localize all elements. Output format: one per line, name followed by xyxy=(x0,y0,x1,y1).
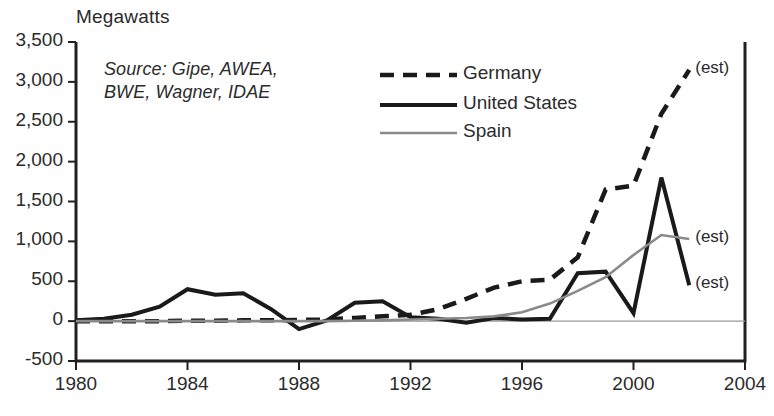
x-tick-label: 1980 xyxy=(36,373,116,395)
x-tick-label: 1984 xyxy=(148,373,228,395)
wind-capacity-chart: Megawatts Source: Gipe, AWEA, BWE, Wagne… xyxy=(0,0,774,416)
y-tick-label: 3,000 xyxy=(0,69,63,91)
x-tick-label: 1996 xyxy=(482,373,562,395)
series-line-spain xyxy=(76,235,689,321)
y-tick-label: 500 xyxy=(0,268,63,290)
series-line-united-states xyxy=(76,178,689,330)
est-label-germany: (est) xyxy=(695,58,729,78)
x-tick-label: 2004 xyxy=(705,373,774,395)
y-tick-label: 3,500 xyxy=(0,29,63,51)
x-tick-label: 2000 xyxy=(594,373,674,395)
y-tick-label: 1,500 xyxy=(0,189,63,211)
y-tick-label: 0 xyxy=(0,308,63,330)
legend-label-germany: Germany xyxy=(463,62,541,84)
legend-swatches xyxy=(380,75,457,133)
x-tick-label: 1988 xyxy=(259,373,339,395)
series-line-germany xyxy=(76,70,689,321)
y-tick-label: -500 xyxy=(0,348,63,370)
plot-canvas xyxy=(0,0,774,416)
y-tick-label: 2,000 xyxy=(0,149,63,171)
legend-label-united-states: United States xyxy=(463,92,577,114)
y-tick-label: 1,000 xyxy=(0,228,63,250)
est-label-spain: (est) xyxy=(695,227,729,247)
data-series-layer xyxy=(76,70,689,329)
legend-label-spain: Spain xyxy=(463,120,512,142)
y-tick-label: 2,500 xyxy=(0,109,63,131)
x-tick-label: 1992 xyxy=(371,373,451,395)
est-label-united-states: (est) xyxy=(695,273,729,293)
